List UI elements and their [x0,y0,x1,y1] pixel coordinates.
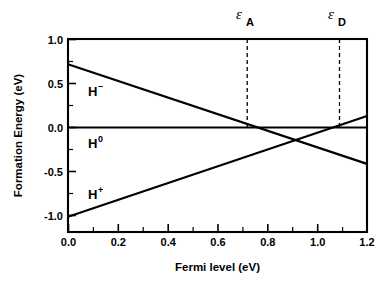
y-tick-label-4: -1.0 [44,210,63,222]
annotation-epsilon-a-subscript: A [246,16,254,28]
y-tick-label-1: 0.5 [48,78,63,90]
y-tick-label-0: 1.0 [48,34,63,46]
series-label-h-minus-base: H [88,84,97,99]
chart-svg: 1.0 0.5 0.0 -0.5 -1.0 0.0 0.2 0.4 0.6 0.… [0,0,390,287]
annotation-epsilon-d-symbol: ε [328,6,334,22]
x-tick-label-5: 1.0 [310,236,325,248]
series-label-h-zero-sup: 0 [98,134,103,144]
formation-energy-chart: 1.0 0.5 0.0 -0.5 -1.0 0.0 0.2 0.4 0.6 0.… [0,0,390,287]
x-tick-label-1: 0.2 [111,236,126,248]
series-label-h-minus-sup: – [98,81,103,91]
y-tick-label-3: -0.5 [44,166,63,178]
x-axis-title: Fermi level (eV) [175,261,260,273]
y-axis-title: Formation Energy (eV) [12,74,24,197]
x-tick-label-2: 0.4 [161,236,177,248]
annotation-epsilon-d-subscript: D [338,16,346,28]
series-label-h-zero-base: H [88,136,97,151]
x-tick-label-0: 0.0 [61,236,76,248]
x-tick-label-4: 0.8 [260,236,275,248]
series-label-h-plus-base: H [88,187,97,202]
y-tick-label-2: 0.0 [48,122,63,134]
x-tick-label-6: 1.2 [359,236,374,248]
annotation-epsilon-a-symbol: ε [236,6,242,22]
series-label-h-plus-sup: + [98,185,103,195]
x-tick-label-3: 0.6 [210,236,225,248]
